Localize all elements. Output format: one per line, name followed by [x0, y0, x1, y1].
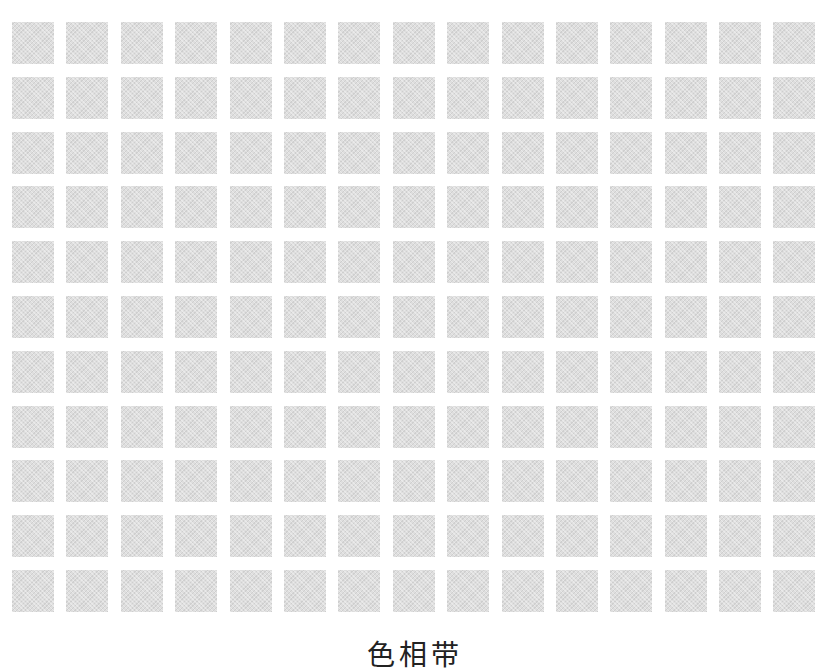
swatch-cell: [393, 406, 435, 448]
swatch-cell: [393, 241, 435, 283]
swatch-cell: [719, 77, 761, 119]
swatch-cell: [610, 77, 652, 119]
swatch-cell: [502, 296, 544, 338]
swatch-cell: [502, 515, 544, 557]
swatch-cell: [175, 186, 217, 228]
swatch-cell: [12, 132, 54, 174]
swatch-cell: [773, 406, 815, 448]
swatch-cell: [610, 460, 652, 502]
swatch-cell: [665, 241, 707, 283]
swatch-cell: [773, 22, 815, 64]
swatch-cell: [121, 132, 163, 174]
swatch-cell: [773, 132, 815, 174]
swatch-cell: [284, 515, 326, 557]
swatch-cell: [393, 515, 435, 557]
swatch-cell: [447, 132, 489, 174]
swatch-cell: [230, 406, 272, 448]
swatch-cell: [121, 515, 163, 557]
swatch-cell: [773, 186, 815, 228]
swatch-cell: [284, 351, 326, 393]
swatch-grid: [12, 22, 815, 612]
swatch-cell: [12, 515, 54, 557]
swatch-cell: [66, 296, 108, 338]
swatch-cell: [719, 570, 761, 612]
swatch-cell: [66, 132, 108, 174]
swatch-cell: [556, 186, 598, 228]
swatch-cell: [610, 132, 652, 174]
swatch-cell: [610, 186, 652, 228]
swatch-cell: [175, 241, 217, 283]
swatch-cell: [556, 77, 598, 119]
swatch-cell: [12, 241, 54, 283]
swatch-cell: [175, 406, 217, 448]
swatch-cell: [338, 77, 380, 119]
swatch-cell: [66, 460, 108, 502]
swatch-cell: [665, 77, 707, 119]
swatch-cell: [773, 570, 815, 612]
swatch-cell: [393, 351, 435, 393]
swatch-cell: [719, 406, 761, 448]
swatch-cell: [121, 22, 163, 64]
swatch-cell: [719, 22, 761, 64]
swatch-cell: [610, 22, 652, 64]
swatch-cell: [175, 22, 217, 64]
swatch-cell: [121, 406, 163, 448]
swatch-cell: [230, 241, 272, 283]
swatch-cell: [338, 241, 380, 283]
swatch-cell: [719, 132, 761, 174]
swatch-cell: [610, 241, 652, 283]
swatch-cell: [773, 515, 815, 557]
swatch-cell: [502, 22, 544, 64]
swatch-cell: [502, 241, 544, 283]
swatch-cell: [447, 406, 489, 448]
swatch-cell: [284, 570, 326, 612]
swatch-cell: [393, 186, 435, 228]
swatch-cell: [447, 515, 489, 557]
swatch-cell: [665, 515, 707, 557]
swatch-cell: [12, 22, 54, 64]
swatch-cell: [502, 406, 544, 448]
swatch-cell: [121, 570, 163, 612]
swatch-cell: [230, 186, 272, 228]
swatch-cell: [393, 22, 435, 64]
swatch-cell: [502, 132, 544, 174]
swatch-cell: [773, 460, 815, 502]
swatch-cell: [773, 351, 815, 393]
swatch-cell: [393, 132, 435, 174]
swatch-cell: [447, 186, 489, 228]
swatch-cell: [121, 351, 163, 393]
swatch-cell: [447, 296, 489, 338]
swatch-cell: [447, 241, 489, 283]
swatch-cell: [393, 296, 435, 338]
swatch-cell: [121, 296, 163, 338]
swatch-cell: [556, 515, 598, 557]
swatch-cell: [338, 296, 380, 338]
swatch-cell: [230, 351, 272, 393]
swatch-cell: [175, 351, 217, 393]
swatch-cell: [665, 351, 707, 393]
swatch-cell: [502, 186, 544, 228]
swatch-cell: [556, 351, 598, 393]
swatch-cell: [230, 77, 272, 119]
swatch-cell: [610, 406, 652, 448]
swatch-cell: [338, 406, 380, 448]
swatch-cell: [12, 406, 54, 448]
swatch-cell: [338, 22, 380, 64]
swatch-cell: [12, 351, 54, 393]
swatch-cell: [338, 186, 380, 228]
swatch-cell: [175, 132, 217, 174]
swatch-cell: [719, 515, 761, 557]
swatch-cell: [12, 77, 54, 119]
swatch-cell: [284, 241, 326, 283]
swatch-cell: [175, 515, 217, 557]
swatch-cell: [773, 77, 815, 119]
swatch-cell: [230, 515, 272, 557]
swatch-cell: [502, 570, 544, 612]
swatch-cell: [12, 570, 54, 612]
swatch-cell: [393, 460, 435, 502]
swatch-cell: [447, 351, 489, 393]
swatch-cell: [665, 570, 707, 612]
swatch-cell: [610, 296, 652, 338]
swatch-cell: [556, 22, 598, 64]
swatch-cell: [502, 351, 544, 393]
